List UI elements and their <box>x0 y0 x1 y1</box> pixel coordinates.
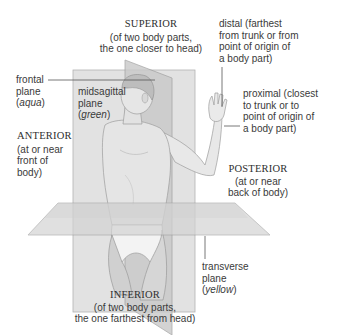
proximal-line2: to trunk or to <box>243 100 318 112</box>
frontal-plane-line1: frontal <box>16 74 45 86</box>
inferior-heading: INFERIOR <box>35 289 235 301</box>
frontal-plane-label: frontal plane (aqua) <box>16 74 45 109</box>
midsagittal-plane-label: midsagittal plane (green) <box>78 86 126 121</box>
anterior-line2: front of <box>17 155 72 167</box>
midsagittal-plane-color: (green) <box>78 109 126 121</box>
midsagittal-plane-line1: midsagittal <box>78 86 126 98</box>
anterior-line1: (at or near <box>17 144 72 156</box>
frontal-plane-line2: plane <box>16 86 45 98</box>
frontal-plane-color: (aqua) <box>16 97 45 109</box>
transverse-plane-line1: transverse <box>202 261 249 273</box>
anterior-line3: body) <box>17 167 72 179</box>
distal-line1: distal (farthest <box>219 18 298 30</box>
distal-label: distal (farthest from trunk or from poin… <box>219 18 298 64</box>
posterior-line2: back of body) <box>218 187 298 199</box>
proximal-label: proximal (closest to trunk or to point o… <box>243 88 318 134</box>
posterior-heading: POSTERIOR <box>218 163 298 175</box>
superior-desc-line2: the one closer to head) <box>66 43 236 55</box>
transverse-plane <box>28 203 270 235</box>
distal-line4: a body part) <box>219 53 298 65</box>
inferior-line2: the one farthest from head) <box>35 313 235 325</box>
superior-heading: SUPERIOR <box>66 18 236 30</box>
superior-label: SUPERIOR (of two body parts, the one clo… <box>66 18 236 55</box>
transverse-plane-line2: plane <box>202 273 249 285</box>
midsagittal-plane-line2: plane <box>78 98 126 110</box>
distal-line3: point of origin of <box>219 41 298 53</box>
anatomy-diagram: SUPERIOR (of two body parts, the one clo… <box>0 0 339 335</box>
inferior-label: INFERIOR (of two body parts, the one far… <box>35 289 235 325</box>
superior-desc-line1: (of two body parts, <box>66 32 236 44</box>
anterior-heading: ANTERIOR <box>17 130 72 142</box>
posterior-line1: (at or near <box>218 176 298 188</box>
proximal-line3: point of origin of <box>243 111 318 123</box>
posterior-label: POSTERIOR (at or near back of body) <box>218 163 298 199</box>
anterior-label: ANTERIOR (at or near front of body) <box>17 130 72 178</box>
proximal-line1: proximal (closest <box>243 88 318 100</box>
distal-line2: from trunk or from <box>219 30 298 42</box>
proximal-line4: a body part) <box>243 123 318 135</box>
inferior-line1: (of two body parts, <box>35 302 235 314</box>
